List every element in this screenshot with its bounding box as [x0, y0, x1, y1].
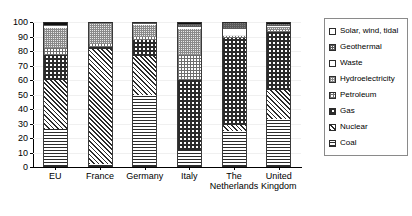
x-axis-tick	[100, 167, 101, 170]
x-axis-line	[33, 167, 302, 168]
y-axis-tick-label: 50	[18, 90, 28, 99]
bar-segment[interactable]	[177, 27, 202, 29]
bar-segment[interactable]	[43, 26, 68, 28]
bar-segment[interactable]	[132, 40, 157, 56]
bar-segment[interactable]	[222, 29, 247, 35]
bar-segment[interactable]	[88, 23, 113, 24]
legend-label: Solar, wind, tidal	[340, 27, 398, 35]
bar-stack[interactable]	[88, 22, 113, 167]
x-axis-tick	[189, 167, 190, 170]
plot-area: 0102030405060708090100	[33, 22, 301, 167]
legend-swatch-icon	[329, 140, 336, 147]
gridline	[33, 80, 301, 81]
legend-label: Petroleum	[340, 91, 376, 99]
bar-segment[interactable]	[177, 150, 202, 167]
legend-swatch-icon	[329, 124, 336, 131]
x-axis-category-label: United Kingdom	[250, 171, 307, 191]
bar-segment[interactable]	[266, 32, 291, 90]
bar-segment[interactable]	[266, 27, 291, 30]
legend-item[interactable]: Petroleum	[329, 87, 404, 103]
y-axis-tick-label: 20	[18, 134, 28, 143]
bar-segment[interactable]	[43, 55, 68, 80]
y-axis-tick-label: 10	[18, 148, 28, 157]
bar-segment[interactable]	[43, 28, 68, 48]
bar-segment[interactable]	[222, 23, 247, 28]
legend-label: Hydroelectricity	[340, 75, 395, 83]
bar-segment[interactable]	[43, 22, 68, 25]
legend-swatch-icon	[329, 108, 336, 115]
legend-item[interactable]: Solar, wind, tidal	[329, 23, 404, 39]
y-axis-tick-label: 30	[18, 119, 28, 128]
bar-segment[interactable]	[43, 80, 68, 129]
legend-label: Waste	[340, 59, 362, 67]
bar-segment[interactable]	[132, 24, 157, 25]
bar-segment[interactable]	[222, 38, 247, 125]
y-axis-tick-label: 40	[18, 105, 28, 114]
bar-segment[interactable]	[132, 22, 157, 23]
bar-segment[interactable]	[43, 25, 68, 26]
bar-segment[interactable]	[43, 48, 68, 55]
bar-stack[interactable]	[132, 22, 157, 167]
legend-swatch-icon	[329, 76, 336, 83]
stacked-bar-chart: 0102030405060708090100 Solar, wind, tida…	[0, 0, 412, 216]
bar-segment[interactable]	[132, 25, 157, 37]
bar-stack[interactable]	[177, 22, 202, 167]
gridline	[33, 22, 301, 23]
y-axis-tick-label: 80	[18, 47, 28, 56]
bar-stack[interactable]	[43, 22, 68, 167]
y-axis-tick-label: 70	[18, 61, 28, 70]
gridline	[33, 37, 301, 38]
legend-swatch-icon	[329, 60, 336, 67]
gridline	[33, 109, 301, 110]
gridline	[33, 124, 301, 125]
bar-segment[interactable]	[222, 35, 247, 38]
bar-segment[interactable]	[177, 29, 202, 55]
bar-segment[interactable]	[132, 95, 157, 167]
bar-segment[interactable]	[88, 47, 113, 49]
bar-stack[interactable]	[266, 22, 291, 167]
bar-segment[interactable]	[177, 55, 202, 80]
bar-segment[interactable]	[43, 129, 68, 167]
legend-item[interactable]: Geothermal	[329, 39, 404, 55]
gridline	[33, 138, 301, 139]
y-axis-tick-label: 90	[18, 32, 28, 41]
bar-segment[interactable]	[222, 131, 247, 167]
bar-segment[interactable]	[88, 49, 113, 164]
legend-label: Coal	[340, 139, 356, 147]
legend-item[interactable]: Gas	[329, 103, 404, 119]
bar-segment[interactable]	[266, 26, 291, 27]
bar-segment[interactable]	[177, 80, 202, 150]
bar-segment[interactable]	[266, 90, 291, 119]
legend-swatch-icon	[329, 92, 336, 99]
bar-segment[interactable]	[266, 119, 291, 167]
bar-segment[interactable]	[88, 164, 113, 167]
legend-label: Nuclear	[340, 123, 368, 131]
bar-segment[interactable]	[177, 22, 202, 24]
legend-item[interactable]: Coal	[329, 135, 404, 151]
y-axis-tick-label: 100	[13, 18, 28, 27]
legend-item[interactable]: Waste	[329, 55, 404, 71]
bar-segment[interactable]	[222, 125, 247, 131]
legend-swatch-icon	[329, 28, 336, 35]
bar-segment[interactable]	[177, 24, 202, 27]
legend-item[interactable]: Hydroelectricity	[329, 71, 404, 87]
bar-segment[interactable]	[88, 22, 113, 23]
bar-segment[interactable]	[88, 24, 113, 44]
bar-segment[interactable]	[222, 22, 247, 23]
bar-segment[interactable]	[132, 23, 157, 24]
gridline	[33, 51, 301, 52]
bar-segment[interactable]	[88, 44, 113, 46]
bar-stack[interactable]	[222, 22, 247, 167]
y-axis-tick-label: 60	[18, 76, 28, 85]
gridline	[33, 95, 301, 96]
bar-segment[interactable]	[132, 56, 157, 95]
x-axis-tick	[279, 167, 280, 170]
legend-swatch-icon	[329, 44, 336, 51]
legend-item[interactable]: Nuclear	[329, 119, 404, 135]
bar-segment[interactable]	[266, 24, 291, 25]
bar-segment[interactable]	[266, 30, 291, 32]
bar-segment[interactable]	[132, 37, 157, 40]
bar-segment[interactable]	[266, 22, 291, 24]
x-axis-tick	[55, 167, 56, 170]
x-axis-tick	[145, 167, 146, 170]
